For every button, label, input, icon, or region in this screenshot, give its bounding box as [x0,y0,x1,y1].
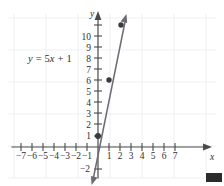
line-start-arrow [91,176,98,185]
plot-point-2-11 [118,22,123,27]
x-tick-label: 4 [140,151,145,161]
equation-x: x [49,53,55,64]
x-tick-label: −1 [82,151,92,161]
y-tick-label: 4 [86,98,91,108]
plot-point-0-1 [95,133,101,139]
x-tick-label: 1 [107,151,112,161]
x-tick-label: −5 [38,151,48,161]
x-tick-label: 3 [129,151,134,161]
x-tick-label: −2 [71,151,81,161]
y-tick-label: 9 [86,43,91,53]
plot-point-1-6 [106,77,111,82]
y-tick-label: 5 [86,87,91,97]
graph-figure: −7 −6 −5 −4 −3 −2 −1 1 2 3 4 5 6 7 −2 1 … [0,0,224,186]
line-end-arrow [121,14,128,23]
x-tick-label: 2 [118,151,123,161]
corner-marker [206,173,222,182]
y-tick-label: −2 [80,164,90,174]
coordinate-plane-svg: −7 −6 −5 −4 −3 −2 −1 1 2 3 4 5 6 7 −2 1 … [0,0,224,186]
x-tick-label: −3 [60,151,70,161]
y-tick-label: 3 [86,109,91,119]
x-axis-label: x [209,152,215,162]
x-tick-label: 5 [151,151,156,161]
y-tick-label: 2 [86,120,91,130]
x-tick-label: −7 [16,151,26,161]
y-tick-label: 1 [86,131,91,141]
y-tick-label: 10 [82,32,92,42]
y-axis-label: y [89,9,95,19]
equation-label: y=5x+1 [27,53,72,64]
x-tick-label: 6 [162,151,167,161]
equation-equals: = [36,53,42,64]
equation-plus: + [58,53,64,64]
y-tick-label: 6 [86,76,91,86]
y-tick-label: 8 [86,54,91,64]
equation-intercept: 1 [66,53,71,64]
x-axis [12,143,212,151]
x-tick-label: −6 [27,151,37,161]
y-axis-arrow [95,11,102,20]
x-tick-label: 7 [173,151,178,161]
x-axis-arrow [203,144,212,151]
equation-y: y [27,53,33,64]
y-tick-label: 7 [86,65,91,75]
x-tick-label: −4 [49,151,59,161]
